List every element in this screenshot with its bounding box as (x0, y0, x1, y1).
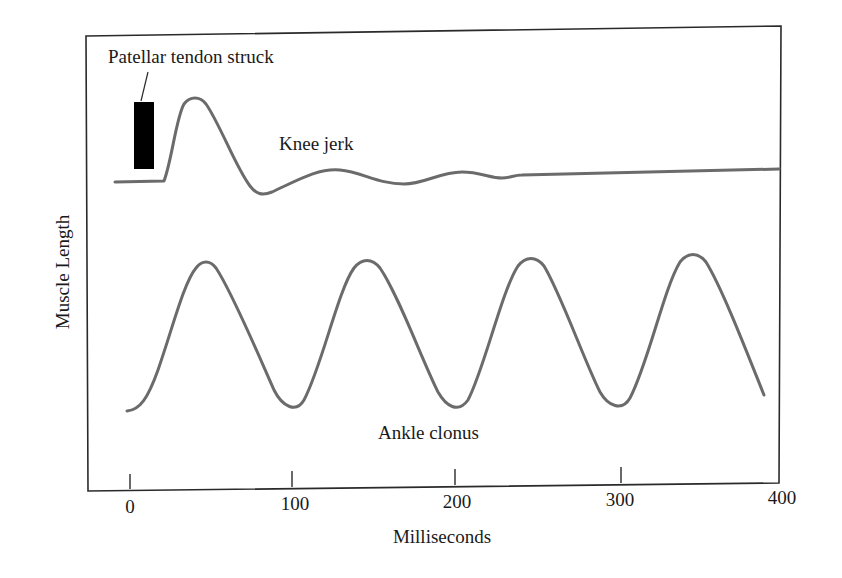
knee-jerk-trace (115, 98, 779, 194)
x-tick-labels: 0 100 200 300 400 (125, 487, 796, 517)
knee-jerk-label: Knee jerk (279, 133, 354, 154)
stimulus-bar (134, 102, 154, 169)
ankle-clonus-trace (127, 255, 764, 412)
x-tick-300: 300 (606, 489, 635, 510)
patellar-annotation: Patellar tendon struck (108, 46, 274, 67)
patellar-pointer (141, 72, 148, 101)
ankle-clonus-label: Ankle clonus (378, 422, 479, 443)
x-tick-0: 0 (125, 496, 135, 517)
y-axis-label: Muscle Length (52, 214, 73, 329)
x-tick-400: 400 (768, 487, 797, 508)
x-tick-100: 100 (281, 493, 310, 514)
x-axis-label: Milliseconds (393, 526, 491, 547)
chart: 0 100 200 300 400 Milliseconds Muscle Le… (0, 0, 842, 578)
x-tick-200: 200 (443, 491, 472, 512)
